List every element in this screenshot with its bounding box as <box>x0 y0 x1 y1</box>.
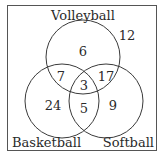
region-none: 12 <box>119 28 136 43</box>
venn-diagram: Volleyball Basketball Softball 12 6 7 17… <box>0 0 167 157</box>
region-basketball-softball: 5 <box>80 101 88 116</box>
region-all-three: 3 <box>80 78 88 93</box>
region-volleyball-only: 6 <box>79 44 87 59</box>
region-softball-only: 9 <box>109 98 117 113</box>
region-basketball-only: 24 <box>45 98 62 113</box>
softball-label: Softball <box>103 135 154 150</box>
volleyball-label: Volleyball <box>50 8 115 23</box>
basketball-label: Basketball <box>12 135 81 150</box>
region-volleyball-softball: 17 <box>98 69 115 84</box>
region-volleyball-basketball: 7 <box>57 69 65 84</box>
